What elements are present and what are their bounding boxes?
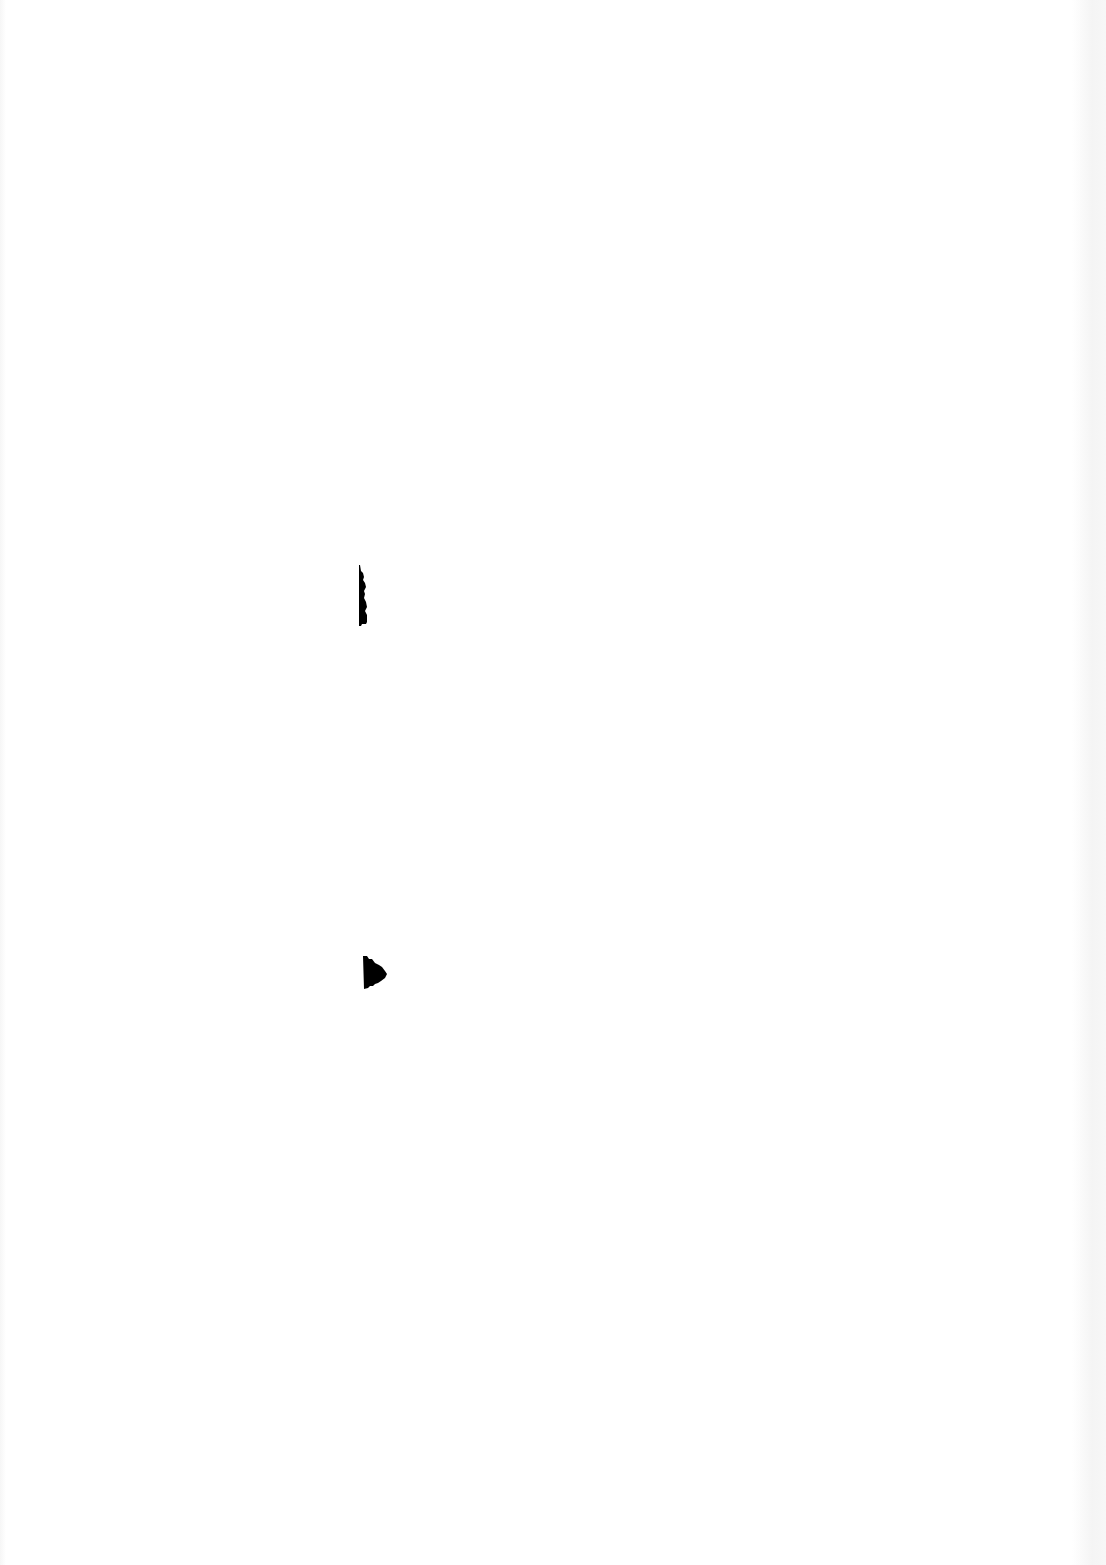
right-edge-shadow <box>1072 0 1106 1565</box>
scanned-page <box>0 0 1106 1565</box>
left-edge-shadow <box>0 0 6 1565</box>
ink-blot-arrow <box>361 953 391 993</box>
ink-blot-vertical <box>356 563 372 629</box>
